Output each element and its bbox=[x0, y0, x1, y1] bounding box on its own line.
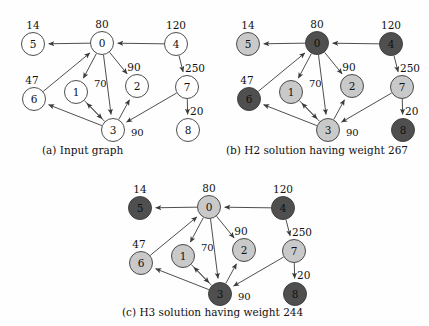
node-0[interactable]: 080 bbox=[306, 18, 329, 55]
node-layer: 5140804120647129072503820 bbox=[237, 18, 421, 142]
node-label-6: 6 bbox=[31, 93, 38, 105]
edge-4-to-0 bbox=[118, 43, 164, 44]
node-8[interactable]: 820 bbox=[284, 269, 311, 306]
node-1[interactable]: 1 bbox=[172, 245, 195, 268]
node-0[interactable]: 080 bbox=[91, 18, 114, 55]
node-weight-8: 20 bbox=[405, 105, 418, 117]
edge-weight-70-0: 70 bbox=[201, 242, 214, 253]
edge-weight-70-0: 70 bbox=[309, 78, 322, 89]
node-4[interactable]: 4120 bbox=[165, 19, 188, 56]
node-3[interactable]: 3 bbox=[102, 119, 125, 142]
node-label-8: 8 bbox=[400, 124, 407, 136]
node-label-4: 4 bbox=[280, 202, 287, 214]
node-layer: 5140804120647129072503820 bbox=[129, 182, 313, 306]
node-weight-7: 250 bbox=[400, 62, 420, 74]
panel-caption-c: (c) H3 solution having weight 244 bbox=[122, 306, 303, 318]
node-label-1: 1 bbox=[180, 250, 187, 262]
edge-1-to-3 bbox=[191, 265, 209, 283]
node-weight-4: 120 bbox=[273, 183, 293, 195]
node-2[interactable]: 290 bbox=[233, 225, 256, 262]
graph-canvas-c: 51408041206471290725038207090 bbox=[107, 166, 319, 316]
edge-layer bbox=[258, 43, 402, 125]
edge-0-to-5 bbox=[264, 43, 305, 44]
node-label-2: 2 bbox=[134, 80, 141, 92]
node-weight-5: 14 bbox=[241, 19, 255, 31]
edge-3-to-2 bbox=[226, 264, 237, 284]
node-label-3: 3 bbox=[325, 124, 332, 136]
node-weight-0: 80 bbox=[202, 182, 215, 194]
graph-canvas-a: 51408041206471290725038207090 bbox=[0, 2, 212, 152]
node-6[interactable]: 647 bbox=[130, 238, 153, 275]
node-4[interactable]: 4120 bbox=[380, 19, 403, 56]
node-4[interactable]: 4120 bbox=[272, 183, 295, 220]
panel-caption-b: (b) H2 solution having weight 267 bbox=[226, 144, 408, 156]
edge-weight-90-1: 90 bbox=[346, 127, 359, 138]
edge-0-to-2 bbox=[110, 52, 128, 74]
node-label-8: 8 bbox=[292, 288, 299, 300]
node-label-7: 7 bbox=[291, 245, 298, 257]
node-weight-6: 47 bbox=[25, 74, 38, 86]
edge-3-to-2 bbox=[119, 100, 130, 120]
edge-layer bbox=[150, 207, 294, 289]
node-label-0: 0 bbox=[314, 37, 321, 49]
edge-0-to-5 bbox=[49, 43, 90, 44]
node-weight-7: 250 bbox=[185, 62, 205, 74]
edge-4-to-0 bbox=[225, 207, 271, 208]
node-label-2: 2 bbox=[241, 244, 248, 256]
node-weight-2: 90 bbox=[342, 61, 355, 73]
edge-3-to-6 bbox=[264, 105, 317, 126]
node-7[interactable]: 7250 bbox=[391, 62, 421, 99]
edge-1-to-3 bbox=[299, 101, 317, 119]
node-label-1: 1 bbox=[288, 86, 295, 98]
edge-weight-70-0: 70 bbox=[94, 78, 107, 89]
node-label-0: 0 bbox=[99, 37, 106, 49]
node-7[interactable]: 7250 bbox=[176, 62, 206, 99]
node-label-8: 8 bbox=[185, 124, 192, 136]
node-3[interactable]: 3 bbox=[209, 283, 232, 306]
node-weight-2: 90 bbox=[234, 225, 247, 237]
node-layer: 5140804120647129072503820 bbox=[22, 18, 206, 142]
node-weight-5: 14 bbox=[26, 19, 40, 31]
node-label-5: 5 bbox=[245, 38, 252, 50]
edge-3-to-6 bbox=[156, 269, 209, 290]
edge-0-to-5 bbox=[156, 207, 197, 208]
edge-4-to-7 bbox=[286, 220, 290, 236]
node-label-2: 2 bbox=[349, 80, 356, 92]
node-5[interactable]: 514 bbox=[237, 19, 260, 56]
node-label-7: 7 bbox=[184, 81, 191, 93]
node-7[interactable]: 7250 bbox=[283, 226, 313, 263]
node-1[interactable]: 1 bbox=[65, 81, 88, 104]
edge-weight-90-1: 90 bbox=[238, 291, 251, 302]
node-label-6: 6 bbox=[246, 93, 253, 105]
edge-3-to-2 bbox=[334, 100, 345, 120]
node-label-3: 3 bbox=[217, 288, 224, 300]
node-1[interactable]: 1 bbox=[280, 81, 303, 104]
node-weight-8: 20 bbox=[297, 269, 310, 281]
node-5[interactable]: 514 bbox=[129, 183, 152, 220]
edge-4-to-7 bbox=[394, 56, 398, 72]
edge-3-to-6 bbox=[49, 105, 102, 126]
graph-canvas-b: 51408041206471290725038207090 bbox=[215, 2, 427, 152]
edge-0-to-2 bbox=[217, 216, 235, 238]
node-3[interactable]: 3 bbox=[317, 119, 340, 142]
node-weight-7: 250 bbox=[292, 226, 312, 238]
graph-panel-a: 51408041206471290725038207090 bbox=[0, 2, 212, 152]
node-weight-6: 47 bbox=[132, 238, 145, 250]
node-label-3: 3 bbox=[110, 124, 117, 136]
node-6[interactable]: 647 bbox=[23, 74, 46, 111]
node-weight-4: 120 bbox=[166, 19, 186, 31]
node-6[interactable]: 647 bbox=[238, 74, 261, 111]
node-weight-0: 80 bbox=[310, 18, 323, 30]
edge-layer bbox=[43, 43, 187, 125]
node-weight-8: 20 bbox=[190, 105, 203, 117]
node-label-6: 6 bbox=[138, 257, 145, 269]
node-0[interactable]: 080 bbox=[198, 182, 221, 219]
node-2[interactable]: 290 bbox=[126, 61, 149, 98]
edge-4-to-7 bbox=[179, 56, 183, 72]
node-8[interactable]: 820 bbox=[392, 105, 419, 142]
node-2[interactable]: 290 bbox=[341, 61, 364, 98]
node-weight-2: 90 bbox=[127, 61, 140, 73]
node-5[interactable]: 514 bbox=[22, 19, 45, 56]
node-8[interactable]: 820 bbox=[177, 105, 204, 142]
edge-weight-90-1: 90 bbox=[131, 127, 144, 138]
